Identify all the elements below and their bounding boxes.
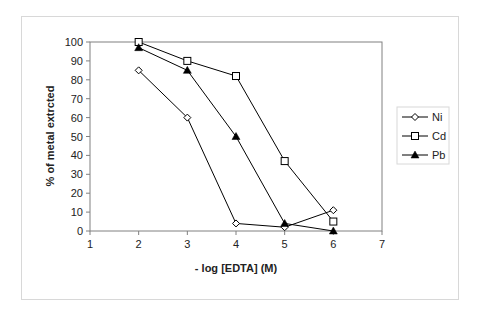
x-tick-label: 1: [87, 238, 93, 250]
x-tick-label: 2: [136, 238, 142, 250]
legend-label: Pb: [432, 149, 445, 161]
data-point: [330, 218, 337, 225]
data-point: [281, 158, 288, 165]
legend-label: Cd: [432, 130, 446, 142]
y-tick-label: 70: [71, 93, 83, 105]
y-axis: 0102030405060708090100: [65, 36, 90, 237]
x-tick-label: 6: [330, 238, 336, 250]
x-tick-label: 5: [282, 238, 288, 250]
y-tick-label: 50: [71, 131, 83, 143]
legend-label: Ni: [432, 111, 442, 123]
x-axis-title: - log [EDTA] (M): [195, 262, 278, 274]
y-tick-label: 30: [71, 168, 83, 180]
x-tick-label: 7: [379, 238, 385, 250]
y-tick-label: 20: [71, 187, 83, 199]
y-tick-label: 60: [71, 112, 83, 124]
y-axis-title: % of metal extrcted: [44, 86, 56, 187]
y-tick-label: 90: [71, 55, 83, 67]
y-tick-label: 100: [65, 36, 83, 48]
data-point: [184, 57, 191, 64]
y-tick-label: 10: [71, 206, 83, 218]
x-tick-label: 3: [184, 238, 190, 250]
y-tick-label: 0: [77, 225, 83, 237]
x-tick-label: 4: [233, 238, 239, 250]
data-point: [233, 73, 240, 80]
y-tick-label: 80: [71, 74, 83, 86]
x-axis: 1234567: [87, 231, 385, 250]
y-tick-label: 40: [71, 149, 83, 161]
line-chart: 0102030405060708090100 1234567 % of meta…: [0, 0, 479, 318]
legend-marker: [412, 133, 419, 140]
legend: NiCdPb: [397, 107, 449, 164]
